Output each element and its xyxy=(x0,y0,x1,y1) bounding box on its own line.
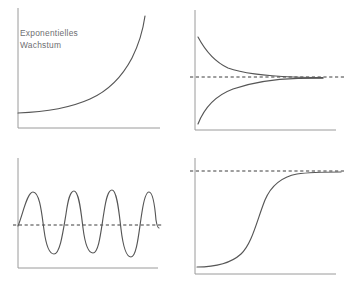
chart-exponential-growth xyxy=(0,0,173,142)
axis-lines xyxy=(195,158,336,274)
axis-lines xyxy=(18,158,158,268)
curve-approach-from-above xyxy=(198,37,323,78)
panel-label-exponential-growth: Exponentielles Wachstum xyxy=(20,27,78,52)
panel-oscillation: Oszillation xyxy=(0,142,173,284)
panel-goal-seeking: Anstreben eines Ziels xyxy=(173,0,346,142)
axis-lines xyxy=(18,8,160,128)
curve-approach-from-below xyxy=(198,78,323,124)
axis-lines xyxy=(195,10,336,130)
systems-behavior-figure: Exponentielles Wachstum Anstreben eines … xyxy=(0,0,347,284)
panel-exponential-growth: Exponentielles Wachstum xyxy=(0,0,173,142)
chart-s-shaped-goal-seeking xyxy=(173,142,346,284)
panel-s-shaped-goal-seeking: S-förmiges anstreben eines Ziels xyxy=(173,142,346,284)
chart-goal-seeking xyxy=(173,0,346,142)
chart-oscillation xyxy=(0,142,173,284)
curve-oscillation xyxy=(18,190,159,257)
curve-s-shaped xyxy=(197,172,341,267)
